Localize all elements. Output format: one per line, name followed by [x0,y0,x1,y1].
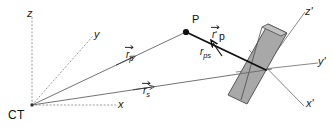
vector-label-rp-prime-subscript: p [219,30,225,42]
detector-plate [228,24,287,104]
vector-label-rs: rs [143,85,150,96]
axis-label-z-prime: z' [305,6,313,17]
axis-label-z: z [27,8,33,19]
detector-plate-face [228,24,287,104]
vector-label-rs-subscript: s [146,90,150,99]
axis-label-x-prime: x' [306,98,314,109]
geometry-diagram-figure: CT P z y x z' y' x' rp rs r'p rps [0,0,334,128]
vector-label-rps: rps [200,46,211,57]
vector-rp-line [32,32,186,105]
vector-label-rp-prime: r'p [212,28,223,40]
axis-y-line [32,36,93,105]
diagram-canvas [0,0,334,128]
axis-label-x: x [118,99,124,110]
origin-label-ct: CT [8,109,25,121]
axis-label-y-prime: y' [318,56,326,67]
point-p-marker [183,29,189,35]
origin-ct-marker [30,103,33,106]
vector-label-rp: rp [126,49,133,60]
axis-label-y: y [94,29,100,40]
vector-label-rps-subscript: ps [203,51,211,60]
vector-arrow-icon [142,80,151,85]
unprimed-axes [32,17,116,105]
vector-label-rp-subscript: p [129,54,133,63]
vector-arrow-icon [125,44,134,49]
vector-label-rp-prime-mark: ' [215,29,217,39]
point-label-p: P [192,14,199,25]
